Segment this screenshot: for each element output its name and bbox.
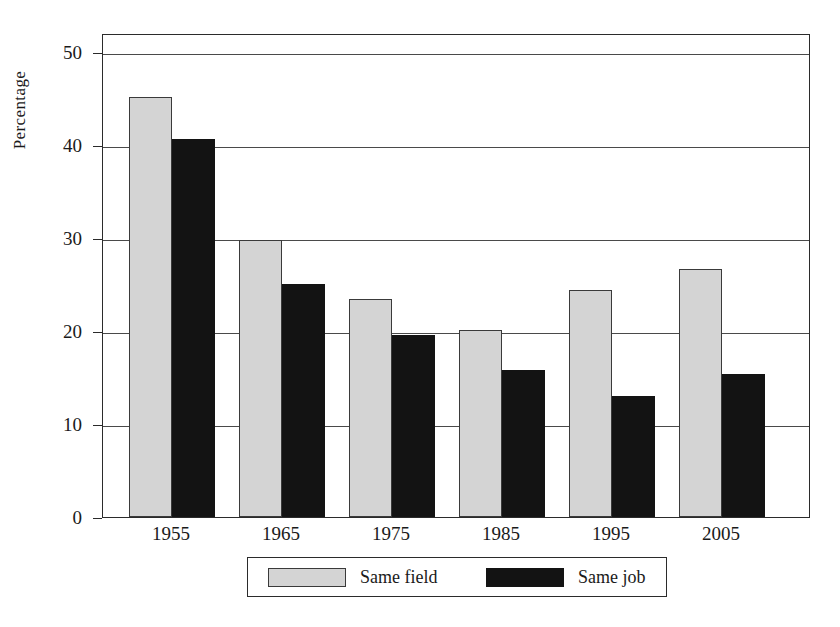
x-axis-tick-label: 1965 [236,524,326,544]
y-axis-tickmark [93,425,102,426]
y-axis-tick-label: 50 [36,43,82,62]
bar-1955-same-field [129,97,172,517]
legend-swatch-same-job [486,568,564,587]
y-axis-tickmark [93,518,102,519]
y-axis-tick-label: 20 [36,322,82,341]
bar-1965-same-job [282,284,325,517]
legend-entry-same-field: Same field [268,558,437,596]
bar-chart-figure: Percentage 01020304050 19551965197519851… [0,0,840,627]
x-axis-tick-label: 2005 [676,524,766,544]
bar-1965-same-field [239,240,282,517]
y-axis-tickmark [93,146,102,147]
legend-entry-same-job: Same job [486,558,646,596]
x-axis-tick-label: 1985 [456,524,546,544]
bar-1995-same-field [569,290,612,517]
bar-1985-same-field [459,330,502,517]
legend-label-same-field: Same field [360,568,437,586]
y-axis-tickmark [93,239,102,240]
x-axis-tick-label: 1955 [126,524,216,544]
plot-area [102,34,810,518]
bar-1975-same-job [392,335,435,517]
y-axis-tick-label: 10 [36,415,82,434]
bar-1975-same-field [349,299,392,517]
x-axis-tick-label: 1995 [566,524,656,544]
bar-1955-same-job [172,139,215,517]
gridline [103,54,809,55]
chart-legend: Same field Same job [247,557,667,597]
bar-2005-same-job [722,374,765,517]
y-axis-tick-label: 40 [36,136,82,155]
x-axis-tick-label: 1975 [346,524,436,544]
legend-label-same-job: Same job [578,568,646,586]
y-axis-tickmark [93,53,102,54]
y-axis-tick-label: 30 [36,229,82,248]
bar-1995-same-job [612,396,655,517]
y-axis-tick-label: 0 [36,508,82,527]
y-axis-tickmark [93,332,102,333]
legend-swatch-same-field [268,568,346,587]
bar-1985-same-job [502,370,545,517]
bar-2005-same-field [679,269,722,518]
